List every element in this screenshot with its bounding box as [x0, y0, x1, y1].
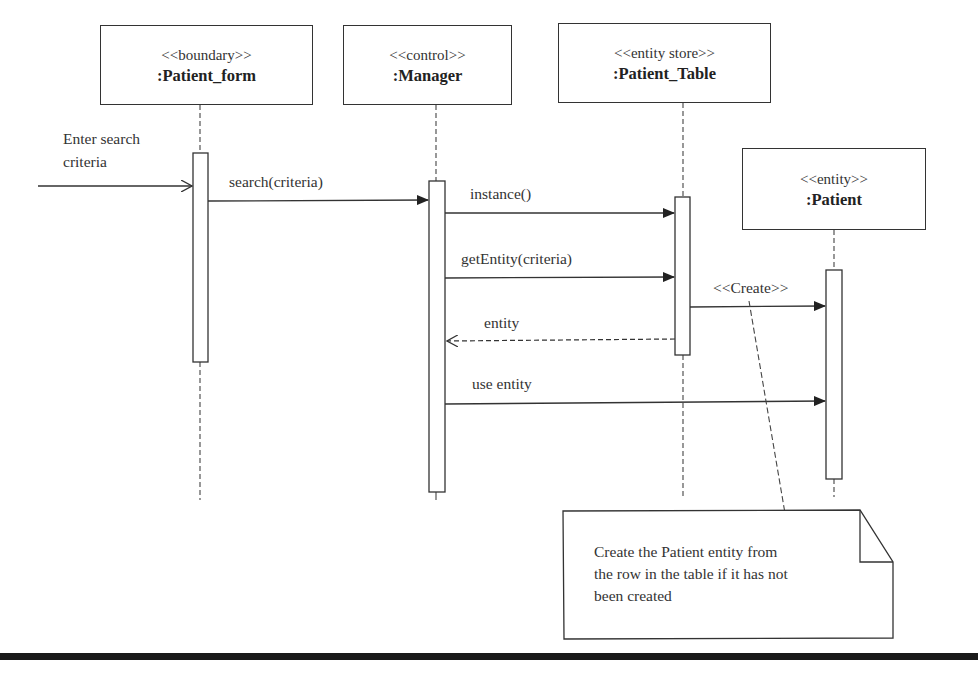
- object-name: :Manager: [393, 65, 463, 86]
- activation-patient-form: [193, 153, 208, 362]
- figure-rule: [0, 653, 978, 660]
- label-enter-search-line1: Enter search: [63, 130, 140, 148]
- object-patient-table: <<entity store>> :Patient_Table: [558, 23, 771, 103]
- object-name: :Patient: [806, 189, 862, 210]
- label-get-entity: getEntity(criteria): [461, 250, 572, 268]
- object-patient-form: <<boundary>> :Patient_form: [100, 25, 313, 105]
- note-connector: [749, 301, 788, 531]
- object-name: :Patient_form: [157, 65, 256, 86]
- arrow-create: [690, 306, 825, 307]
- label-entity-return: entity: [484, 314, 519, 332]
- stereotype-label: <<boundary>>: [161, 45, 252, 65]
- label-use-entity: use entity: [472, 375, 532, 393]
- stereotype-label: <<control>>: [389, 45, 465, 65]
- arrow-get-entity: [445, 277, 674, 278]
- note-line-2: the row in the table if it has not: [594, 563, 788, 585]
- activation-patient: [826, 270, 842, 479]
- object-manager: <<control>> :Manager: [343, 25, 512, 105]
- stereotype-label: <<entity>>: [800, 169, 868, 189]
- arrow-search-criteria: [208, 200, 428, 201]
- note-line-1: Create the Patient entity from: [594, 541, 777, 563]
- object-patient: <<entity>> :Patient: [742, 148, 926, 230]
- stereotype-label: <<entity store>>: [614, 43, 715, 63]
- activation-manager: [429, 181, 445, 492]
- arrow-use-entity: [445, 401, 825, 404]
- note-line-3: been created: [594, 585, 672, 607]
- object-name: :Patient_Table: [613, 63, 716, 84]
- label-enter-search-line2: criteria: [63, 153, 107, 171]
- arrow-entity-return: [447, 339, 675, 341]
- label-create: <<Create>>: [713, 279, 788, 297]
- label-instance: instance(): [470, 185, 531, 203]
- label-search-criteria: search(criteria): [229, 173, 323, 191]
- activation-patient-table: [675, 197, 690, 355]
